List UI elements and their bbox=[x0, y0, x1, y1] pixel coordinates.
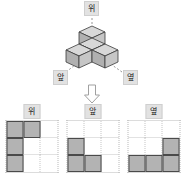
view-grids-row: 위 앞 옆 bbox=[0, 104, 185, 178]
view-block-front: 앞 bbox=[64, 104, 121, 178]
view-cell bbox=[84, 121, 101, 138]
view-cell bbox=[145, 121, 162, 138]
view-cell bbox=[67, 155, 84, 172]
view-cell bbox=[145, 138, 162, 155]
view-cell bbox=[145, 155, 162, 172]
view-cell bbox=[101, 121, 118, 138]
view-cell bbox=[101, 138, 118, 155]
view-grid-front bbox=[66, 120, 119, 173]
view-cell bbox=[84, 155, 101, 172]
view-label-top: 위 bbox=[23, 104, 40, 119]
view-cell bbox=[40, 138, 57, 155]
view-cell bbox=[40, 155, 57, 172]
view-cell bbox=[6, 138, 23, 155]
view-cell bbox=[162, 138, 179, 155]
view-cell bbox=[23, 121, 40, 138]
view-grid-top bbox=[5, 120, 58, 173]
view-cell bbox=[128, 138, 145, 155]
view-grid-side bbox=[127, 120, 180, 173]
view-label-side: 옆 bbox=[145, 104, 162, 119]
view-cell bbox=[23, 155, 40, 172]
view-cell bbox=[101, 155, 118, 172]
leader-line-side bbox=[112, 65, 122, 72]
view-cell bbox=[40, 121, 57, 138]
view-cell bbox=[162, 155, 179, 172]
view-cell bbox=[6, 121, 23, 138]
figure-label-side: 옆 bbox=[123, 70, 138, 85]
view-cell bbox=[128, 155, 145, 172]
view-block-side: 옆 bbox=[125, 104, 182, 178]
view-cell bbox=[67, 121, 84, 138]
figure-label-top: 위 bbox=[84, 1, 99, 16]
figure-label-front: 앞 bbox=[53, 70, 68, 85]
view-label-front: 앞 bbox=[84, 104, 101, 119]
view-cell bbox=[67, 138, 84, 155]
view-cell bbox=[23, 138, 40, 155]
view-cell bbox=[6, 155, 23, 172]
view-cell bbox=[162, 121, 179, 138]
down-arrow bbox=[82, 84, 102, 104]
view-cell bbox=[84, 138, 101, 155]
view-block-top: 위 bbox=[3, 104, 60, 178]
view-cell bbox=[128, 121, 145, 138]
